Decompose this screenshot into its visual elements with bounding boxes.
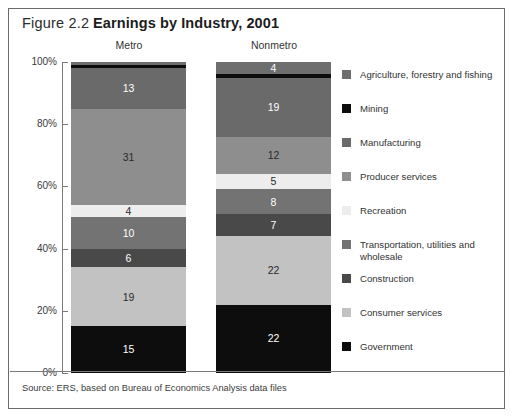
bar-segment: 6 <box>71 249 186 268</box>
legend-item-label: Consumer services <box>360 307 442 319</box>
bar-segment: 5 <box>216 174 331 190</box>
bar-segment: 10 <box>71 217 186 248</box>
y-tick-mark <box>62 186 68 187</box>
segment-value-label: 4 <box>271 63 277 74</box>
stacked-bar-metro: 133141061915 <box>71 62 186 373</box>
legend-item[interactable]: Transportation, utilities and wholesale <box>342 239 502 262</box>
legend-item[interactable]: Manufacturing <box>342 137 421 149</box>
segment-value-label: 12 <box>268 150 280 161</box>
bar-segment: 4 <box>216 62 331 74</box>
y-tick-label: 0% <box>17 367 57 378</box>
legend-item-label: Government <box>360 341 413 353</box>
y-tick-mark <box>62 373 68 374</box>
y-tick-mark <box>62 124 68 125</box>
y-tick-label: 20% <box>17 305 57 316</box>
legend-item[interactable]: Recreation <box>342 205 406 217</box>
legend-swatch-icon <box>342 342 351 351</box>
y-axis-line <box>62 62 63 373</box>
legend-swatch-icon <box>342 104 351 113</box>
segment-value-label: 22 <box>268 333 280 344</box>
segment-value-label: 5 <box>271 176 277 187</box>
legend-swatch-icon <box>342 308 351 317</box>
segment-value-label: 19 <box>268 102 280 113</box>
y-tick-label: 100% <box>17 56 57 67</box>
segment-value-label: 15 <box>123 344 135 355</box>
segment-value-label: 31 <box>123 152 135 163</box>
segment-value-label: 19 <box>123 292 135 303</box>
legend-item[interactable]: Government <box>342 341 413 353</box>
segment-value-label: 13 <box>123 83 135 94</box>
bar-segment: 7 <box>216 214 331 236</box>
bar-segment: 13 <box>71 68 186 108</box>
segment-value-label: 7 <box>271 220 277 231</box>
legend-item[interactable]: Consumer services <box>342 307 442 319</box>
legend-swatch-icon <box>342 70 351 79</box>
figure-frame: Figure 2.2 Earnings by Industry, 2001 Me… <box>8 8 505 409</box>
legend-item-label: Agriculture, forestry and fishing <box>360 69 492 81</box>
legend-swatch-icon <box>342 138 351 147</box>
bar-segment: 4 <box>71 205 186 217</box>
source-note: Source: ERS, based on Bureau of Economic… <box>22 383 287 393</box>
legend-item-label: Manufacturing <box>360 137 421 149</box>
legend-swatch-icon <box>342 172 351 181</box>
y-tick-mark <box>62 311 68 312</box>
segment-value-label: 10 <box>123 228 135 239</box>
y-tick-label: 60% <box>17 180 57 191</box>
segment-value-label: 6 <box>126 253 132 264</box>
legend-item[interactable]: Construction <box>342 273 414 285</box>
segment-value-label: 8 <box>271 197 277 208</box>
legend-item-label: Recreation <box>360 205 406 217</box>
legend-item-label: Construction <box>360 273 414 285</box>
legend-item-label: Mining <box>360 103 388 115</box>
bar-segment: 8 <box>216 189 331 214</box>
segment-value-label: 22 <box>268 265 280 276</box>
legend-item[interactable]: Producer services <box>342 171 437 183</box>
bar-segment: 22 <box>216 236 331 304</box>
legend-swatch-icon <box>342 240 351 249</box>
note-divider <box>10 371 505 372</box>
y-tick-label: 40% <box>17 243 57 254</box>
bar-segment: 22 <box>216 305 331 373</box>
bar-segment: 31 <box>71 109 186 205</box>
segment-value-label: 4 <box>126 206 132 217</box>
legend-swatch-icon <box>342 274 351 283</box>
legend-item-label: Transportation, utilities and wholesale <box>360 239 502 262</box>
legend-item-label: Producer services <box>360 171 437 183</box>
legend-swatch-icon <box>342 206 351 215</box>
legend-item[interactable]: Mining <box>342 103 388 115</box>
y-tick-mark <box>62 249 68 250</box>
legend-item[interactable]: Agriculture, forestry and fishing <box>342 69 492 81</box>
stacked-bar-nonmetro: 419125872222 <box>216 62 331 373</box>
bar-segment: 19 <box>71 267 186 326</box>
bar-segment: 15 <box>71 326 186 373</box>
bar-segment: 19 <box>216 78 331 137</box>
bar-segment: 12 <box>216 137 331 174</box>
y-tick-mark <box>62 62 68 63</box>
y-tick-label: 80% <box>17 118 57 129</box>
